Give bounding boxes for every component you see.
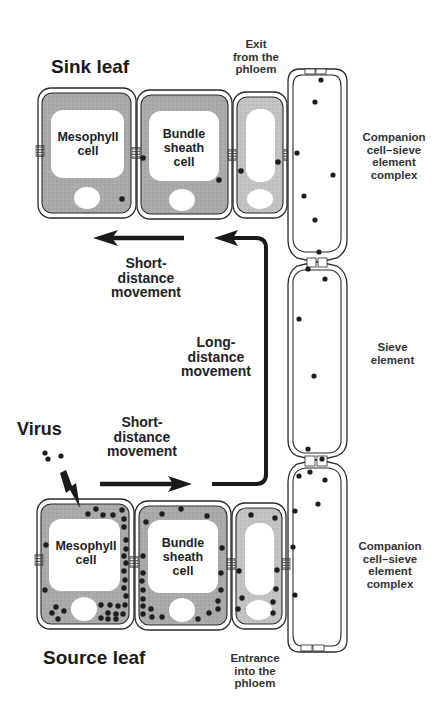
short-distance-lower-label: Short- distance movement bbox=[98, 415, 186, 459]
virus-particles bbox=[42, 450, 63, 461]
sink-bundle-sheath-label: Bundle sheath cell bbox=[150, 128, 218, 169]
short-distance-upper-label: Short- distance movement bbox=[100, 256, 192, 300]
sink-phloem-cell bbox=[233, 92, 287, 218]
upper-complex-label: Companion cell–sieve element complex bbox=[352, 131, 436, 182]
lower-complex-label: Companion cell–sieve element complex bbox=[348, 540, 432, 591]
sieve-element-label: Sieve element bbox=[360, 341, 425, 366]
long-distance-label: Long- distance movement bbox=[170, 335, 262, 379]
sink-leaf-title: Sink leaf bbox=[51, 57, 129, 77]
short-distance-arrow-upper bbox=[93, 230, 184, 246]
phloem-tube bbox=[288, 69, 347, 652]
source-phloem-cell bbox=[232, 503, 286, 629]
sink-mesophyll-label: Mesophyll cell bbox=[52, 131, 124, 159]
virus-label: Virus bbox=[17, 420, 62, 439]
exit-phloem-label: Exit from the phloem bbox=[226, 38, 286, 76]
short-distance-arrow-lower bbox=[100, 476, 192, 492]
sieve-element bbox=[288, 258, 347, 460]
source-bundle-sheath-label: Bundle sheath cell bbox=[149, 537, 217, 578]
entrance-phloem-label: Entrance into the phloem bbox=[222, 652, 288, 690]
source-leaf-title: Source leaf bbox=[43, 648, 145, 668]
upper-companion-sieve-complex bbox=[288, 69, 347, 262]
source-mesophyll-label: Mesophyll cell bbox=[50, 540, 122, 568]
lower-companion-sieve-complex bbox=[288, 456, 347, 652]
